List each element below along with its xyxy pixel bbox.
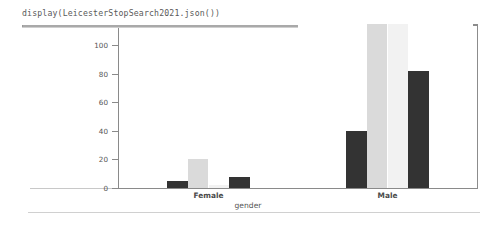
bar-female-series-4 [229,177,250,188]
y-axis-tick-label: 80 [99,69,108,78]
x-axis-tick-label-male: Male [378,191,398,200]
plot-border-right [477,24,478,189]
bar-female-series-1 [167,181,188,188]
x-axis-title: gender [0,201,496,210]
y-axis-tick [112,131,118,132]
y-axis-tick-label: 100 [94,41,108,50]
bar-male-series-3 [388,24,409,188]
bar-female-series-3 [209,185,230,188]
bar-male-series-4 [408,71,429,188]
x-axis-line [118,188,477,189]
y-axis-tick [112,45,118,46]
y-axis-tick [112,74,118,75]
y-axis-tick-label: 20 [99,155,108,164]
bar-female-series-2 [188,159,209,188]
bar-male-series-1 [346,131,367,188]
y-axis-tick-label: 60 [99,98,108,107]
bar-chart: 020406080100 FemaleMale gender [0,0,496,230]
x-axis-tick-label-female: Female [194,191,224,200]
y-axis-tick [112,159,118,160]
y-axis-tick [112,188,118,189]
y-axis-tick-label: 0 [103,184,108,193]
y-axis-tick-label: 40 [99,126,108,135]
bars-layer [119,24,477,188]
y-axis-tick [112,102,118,103]
bar-male-series-2 [367,24,388,188]
screenshot-root: display(LeicesterStopSearch2021.json()) … [0,0,496,230]
